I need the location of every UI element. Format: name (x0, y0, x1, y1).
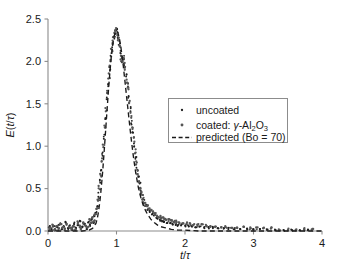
data-point (96, 205, 98, 207)
data-point (80, 228, 82, 230)
legend-label-uncoated: uncoated (196, 104, 239, 116)
residence-time-distribution-chart: 01234 0.00.51.01.52.02.5 E(t/τ) t/τ unco… (0, 0, 346, 268)
data-point (267, 228, 269, 230)
y-tick-label: 1.5 (26, 98, 41, 110)
data-point (230, 227, 232, 229)
data-point (185, 223, 187, 225)
y-tick-label: 0.0 (26, 225, 41, 237)
data-point (138, 175, 140, 177)
data-point (111, 46, 113, 48)
data-point (151, 213, 153, 215)
legend-coated-suffix: -Al (239, 119, 252, 131)
data-point (177, 225, 179, 227)
data-point (97, 192, 99, 194)
data-point (224, 226, 226, 228)
data-point (53, 229, 55, 231)
data-point (100, 169, 102, 171)
x-tick-label: 1 (113, 237, 119, 249)
svg-text:E(t/τ): E(t/τ) (4, 113, 16, 138)
data-point (209, 226, 211, 228)
data-point (134, 148, 136, 150)
data-point (119, 58, 121, 60)
data-point (101, 160, 103, 162)
data-point (163, 221, 165, 223)
data-point (127, 97, 129, 99)
data-point (148, 208, 150, 210)
data-point (152, 210, 154, 212)
data-point (262, 227, 264, 229)
data-point (87, 226, 89, 228)
data-point (114, 30, 116, 32)
data-point (161, 220, 163, 222)
data-point (97, 199, 99, 201)
data-point (256, 228, 258, 230)
data-point (123, 62, 125, 64)
data-point (115, 27, 117, 29)
y-title-paren-close: ) (4, 113, 16, 117)
data-point (169, 222, 171, 224)
y-tick-label: 0.5 (26, 182, 41, 194)
data-point (104, 107, 106, 109)
data-point (125, 76, 127, 78)
data-point (270, 226, 272, 228)
x-axis-title: t/τ (180, 249, 191, 261)
data-point (97, 185, 99, 187)
data-point (246, 228, 248, 230)
legend-marker-uncoated (181, 109, 183, 111)
data-point (76, 220, 78, 222)
data-point (133, 146, 135, 148)
data-point (175, 221, 177, 223)
data-point (128, 102, 130, 104)
data-point (239, 228, 241, 230)
data-point (131, 124, 133, 126)
data-point (126, 73, 128, 75)
data-point (72, 225, 74, 227)
data-point (214, 225, 216, 227)
data-point (57, 225, 59, 227)
data-point (192, 224, 194, 226)
data-point (158, 216, 160, 218)
data-point (133, 137, 135, 139)
data-point (172, 224, 174, 226)
data-point (160, 217, 162, 219)
data-point (139, 188, 141, 190)
data-point (124, 66, 126, 68)
data-point (126, 82, 128, 84)
data-point (52, 225, 54, 227)
data-point (144, 202, 146, 204)
x-tick-label: 0 (45, 237, 51, 249)
data-point (99, 182, 101, 184)
data-point (185, 226, 187, 228)
data-point (137, 173, 139, 175)
data-point (182, 222, 184, 224)
data-point (134, 152, 136, 154)
data-point (99, 180, 101, 182)
data-point (218, 228, 220, 230)
data-point (138, 181, 140, 183)
data-point (88, 218, 90, 220)
y-tick-label: 2.0 (26, 55, 41, 67)
data-point (259, 228, 261, 230)
data-point (134, 158, 136, 160)
data-point (189, 224, 191, 226)
legend-coated-mid: O (256, 119, 264, 131)
data-point (132, 127, 134, 129)
data-point (117, 39, 119, 41)
data-point (48, 228, 50, 230)
x-tick-label: 4 (319, 237, 325, 249)
data-point (92, 221, 94, 223)
data-point (130, 106, 132, 108)
data-point (80, 226, 82, 228)
data-point (147, 204, 149, 206)
data-point (236, 227, 238, 229)
data-point (140, 191, 142, 193)
chart-legend: uncoated coated: γ-Al2O3 predicted (Bo =… (169, 99, 288, 144)
data-point (91, 216, 93, 218)
data-point (73, 222, 75, 224)
data-point (127, 86, 129, 88)
data-point (103, 144, 105, 146)
data-point (65, 223, 67, 225)
data-point (172, 221, 174, 223)
data-point (82, 222, 84, 224)
data-point (87, 221, 89, 223)
